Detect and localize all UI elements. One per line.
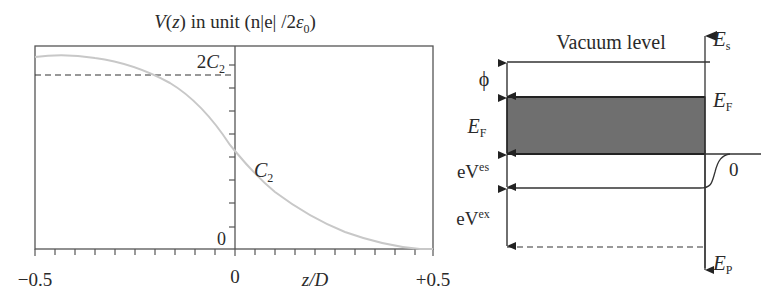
ef-right-label: EF xyxy=(712,88,733,114)
ves-label: eVes xyxy=(457,160,489,182)
figure: V(z) in unit (n|e| /2ε0) xyxy=(0,0,780,305)
ef-left-label: EF xyxy=(467,115,487,140)
potential-curve xyxy=(35,55,433,249)
ep-label: EP xyxy=(712,251,733,277)
x-label-center: 0 xyxy=(230,266,240,287)
x-axis-title: z/D xyxy=(301,269,329,290)
plot-title: V(z) in unit (n|e| /2ε0) xyxy=(154,11,315,36)
fermi-band xyxy=(507,97,705,154)
x-label-left: −0.5 xyxy=(18,269,52,290)
plot-frame xyxy=(35,46,433,249)
zero-label: 0 xyxy=(729,159,739,180)
electrostatic-level-curve xyxy=(507,154,730,188)
phi-label: ϕ xyxy=(479,68,490,91)
y-label-2c2: 2C2 xyxy=(197,51,225,76)
es-label: Es xyxy=(712,27,731,53)
x-axis-ticks xyxy=(35,249,433,256)
x-label-right: +0.5 xyxy=(416,269,450,290)
potential-plot: V(z) in unit (n|e| /2ε0) xyxy=(18,11,450,290)
y-label-zero: 0 xyxy=(217,229,226,249)
vex-label: eVex xyxy=(456,207,489,229)
energy-level-diagram: Vacuum level ϕ EF eVes eVex Es EF 0 xyxy=(456,27,761,277)
vacuum-level-label: Vacuum level xyxy=(556,31,666,53)
